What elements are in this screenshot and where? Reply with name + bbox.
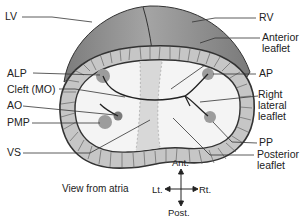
label-anterior-leaflet-line2: leaflet	[262, 43, 299, 54]
label-right-lateral-leaflet: Right lateral leaflet	[258, 89, 287, 122]
compass-left: Lt.	[152, 184, 163, 195]
compass-anterior: Ant.	[172, 157, 189, 168]
label-ao: AO	[7, 100, 22, 111]
caption-view-from-atria: View from atria	[62, 183, 129, 194]
compass-posterior: Post.	[168, 207, 190, 218]
label-right-lateral-line3: leaflet	[258, 111, 287, 122]
compass-right: Rt.	[199, 184, 211, 195]
label-alp: ALP	[7, 68, 27, 79]
label-rv: RV	[259, 12, 273, 23]
label-pmp: PMP	[7, 117, 30, 128]
pp-papillary	[204, 111, 216, 123]
label-posterior-leaflet: Posterior leaflet	[257, 149, 299, 171]
label-lv: LV	[5, 11, 17, 22]
pmp-papillary	[98, 115, 112, 129]
label-ap: AP	[259, 68, 273, 79]
label-posterior-leaflet-line2: leaflet	[257, 160, 299, 171]
label-cleft-mo: Cleft (MO)	[7, 84, 55, 95]
label-vs: VS	[7, 147, 21, 158]
valve-diagram: LV ALP Cleft (MO) AO PMP VS RV Anterior …	[0, 0, 305, 219]
orientation-compass	[165, 169, 198, 206]
label-anterior-leaflet: Anterior leaflet	[262, 32, 299, 54]
label-pp: PP	[259, 137, 273, 148]
